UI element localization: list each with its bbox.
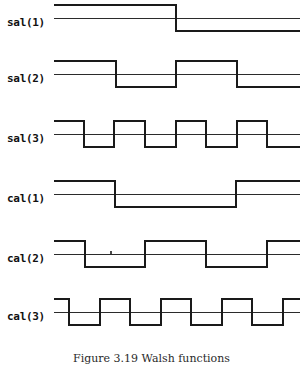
waveform-row-sal1: sal(1) — [0, 2, 303, 54]
waveform-row-sal3: sal(3) — [0, 118, 303, 170]
waveform-plot-sal1 — [0, 2, 303, 54]
speck-mark — [110, 251, 112, 254]
waveform-row-cal1: cal(1) — [0, 178, 303, 230]
waveform-plot-sal3 — [0, 118, 303, 170]
waveform-plot-cal2 — [0, 238, 303, 290]
waveform-plot-cal1 — [0, 178, 303, 230]
waveform-row-sal2: sal(2) — [0, 58, 303, 110]
waveform-plot-cal3 — [0, 296, 303, 348]
waveform-row-cal2: cal(2) — [0, 238, 303, 290]
waveform-plot-sal2 — [0, 58, 303, 110]
figure-caption: Figure 3.19 Walsh functions — [0, 352, 303, 365]
waveform-row-cal3: cal(3) — [0, 296, 303, 348]
walsh-functions-figure: sal(1)sal(2)sal(3)cal(1)cal(2)cal(3) Fig… — [0, 0, 303, 367]
